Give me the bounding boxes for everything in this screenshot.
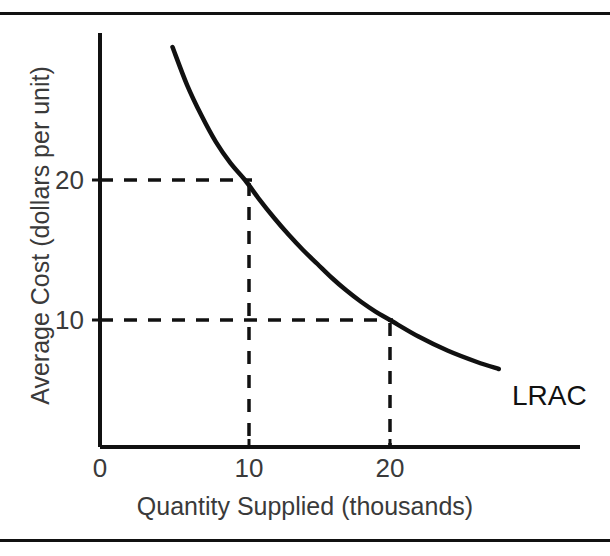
chart-plot-area — [0, 0, 610, 556]
y-axis-title-wrapper: Average Cost (dollars per unit) — [18, 0, 62, 470]
y-axis-title: Average Cost (dollars per unit) — [26, 66, 55, 405]
x-axis-title: Quantity Supplied (thousands) — [0, 492, 610, 521]
x-tick-label-0: 0 — [93, 455, 107, 481]
lrac-series-label: LRAC — [512, 380, 587, 412]
x-tick-label-20: 20 — [376, 455, 405, 481]
x-tick-label-10: 10 — [235, 455, 264, 481]
economics-lrac-figure: 20 10 0 10 20 Quantity Supplied (thousan… — [0, 0, 610, 556]
